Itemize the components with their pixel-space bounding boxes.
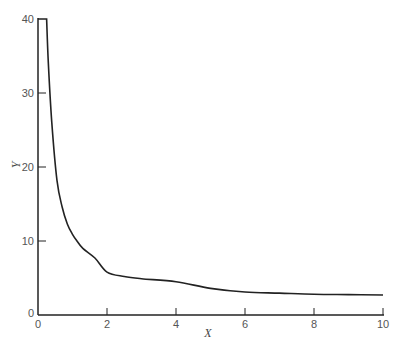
- y-tick-label: 40: [22, 13, 34, 25]
- y-tick-label: 30: [22, 87, 34, 99]
- x-ticks: 0246810: [35, 308, 389, 330]
- y-tick-label: 0: [28, 307, 34, 319]
- chart: 0246810 010203040 X Y: [0, 0, 400, 354]
- x-tick-label: 0: [35, 318, 41, 330]
- x-tick-label: 2: [104, 318, 110, 330]
- x-tick-label: 4: [173, 318, 179, 330]
- y-tick-label: 10: [22, 235, 34, 247]
- y-ticks: 010203040: [22, 13, 46, 319]
- x-tick-label: 8: [311, 318, 317, 330]
- y-tick-label: 20: [22, 161, 34, 173]
- x-tick-label: 10: [377, 318, 389, 330]
- x-axis-label: X: [203, 326, 212, 340]
- axes: [38, 18, 384, 315]
- data-line: [38, 19, 383, 295]
- x-tick-label: 6: [242, 318, 248, 330]
